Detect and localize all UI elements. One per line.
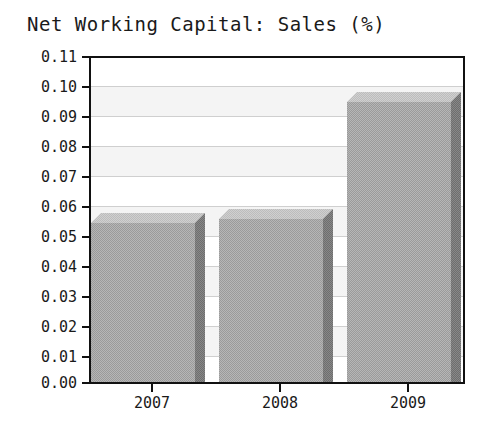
x-axis-label-2009: 2009 bbox=[368, 394, 448, 412]
y-axis-tick bbox=[82, 86, 89, 88]
bar-2008-top-face bbox=[219, 209, 333, 219]
y-axis-tick bbox=[82, 296, 89, 298]
bar-2007-top-face bbox=[91, 213, 205, 223]
x-axis-tick bbox=[279, 384, 281, 392]
bar-2008-side-face bbox=[323, 209, 333, 384]
y-axis-tick bbox=[82, 116, 89, 118]
x-axis-label-2008: 2008 bbox=[240, 394, 320, 412]
y-axis-tick bbox=[82, 266, 89, 268]
bar-chart: Net Working Capital: Sales (%) 0.11 0.10… bbox=[0, 0, 486, 442]
y-axis-label: 0.03 bbox=[41, 290, 77, 305]
y-axis-tick bbox=[82, 206, 89, 208]
x-axis-label-2007: 2007 bbox=[112, 394, 192, 412]
y-axis-label: 0.07 bbox=[41, 170, 77, 185]
y-axis-tick bbox=[82, 382, 89, 384]
bar-2009[interactable] bbox=[347, 58, 465, 384]
bar-2008[interactable] bbox=[219, 58, 343, 384]
y-axis-tick bbox=[82, 236, 89, 238]
y-axis-label: 0.08 bbox=[41, 140, 77, 155]
y-axis-label: 0.02 bbox=[41, 320, 77, 335]
bar-2009-top-face bbox=[347, 92, 461, 102]
x-axis-tick bbox=[407, 384, 409, 392]
bar-2009-side-face bbox=[451, 92, 461, 384]
bar-2008-front-face bbox=[219, 219, 323, 384]
bar-2009-front-face bbox=[347, 102, 451, 384]
y-axis-tick bbox=[82, 356, 89, 358]
chart-title: Net Working Capital: Sales (%) bbox=[27, 12, 385, 36]
y-axis-label: 0.09 bbox=[41, 110, 77, 125]
y-axis-label: 0.04 bbox=[41, 260, 77, 275]
y-axis-label: 0.11 bbox=[41, 50, 77, 65]
y-axis-label: 0.00 bbox=[41, 376, 77, 391]
y-axis-tick bbox=[82, 326, 89, 328]
y-axis-label: 0.06 bbox=[41, 200, 77, 215]
y-axis-label: 0.05 bbox=[41, 230, 77, 245]
y-axis-tick bbox=[82, 56, 89, 58]
plot-area bbox=[89, 56, 465, 384]
bar-2007[interactable] bbox=[91, 58, 215, 384]
y-axis-label: 0.01 bbox=[41, 350, 77, 365]
x-axis-tick bbox=[151, 384, 153, 392]
bar-2007-side-face bbox=[195, 213, 205, 384]
y-axis-tick bbox=[82, 176, 89, 178]
y-axis-label: 0.10 bbox=[41, 80, 77, 95]
bar-2007-front-face bbox=[91, 223, 195, 384]
y-axis-tick bbox=[82, 146, 89, 148]
